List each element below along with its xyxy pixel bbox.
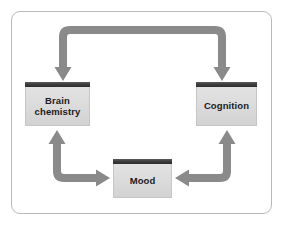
node-header-bar <box>113 159 172 164</box>
node-brain-chemistry: Brain chemistry <box>25 87 90 126</box>
arrowhead-left-to-mood <box>175 170 189 187</box>
diagram-canvas: Brain chemistry Cognition Mood <box>0 0 285 227</box>
node-header-bar <box>196 82 257 87</box>
connector-brain-chemistry-mood <box>49 130 111 187</box>
node-label-mood: Mood <box>127 175 159 187</box>
arrowhead-up-right <box>219 130 236 144</box>
node-header-bar <box>25 82 90 87</box>
arrowhead-right-to-mood <box>96 170 110 187</box>
node-label-brain-chemistry: Brain chemistry <box>32 95 84 118</box>
arrowhead-up-left <box>49 130 66 144</box>
node-label-cognition: Cognition <box>201 100 252 112</box>
node-cognition: Cognition <box>196 87 257 126</box>
connector-brain-chemistry-cognition <box>55 30 231 81</box>
node-mood: Mood <box>113 164 172 198</box>
arrowhead-down-left <box>55 67 72 81</box>
arrowhead-down-right <box>214 67 231 81</box>
connector-cognition-mood <box>175 130 236 187</box>
